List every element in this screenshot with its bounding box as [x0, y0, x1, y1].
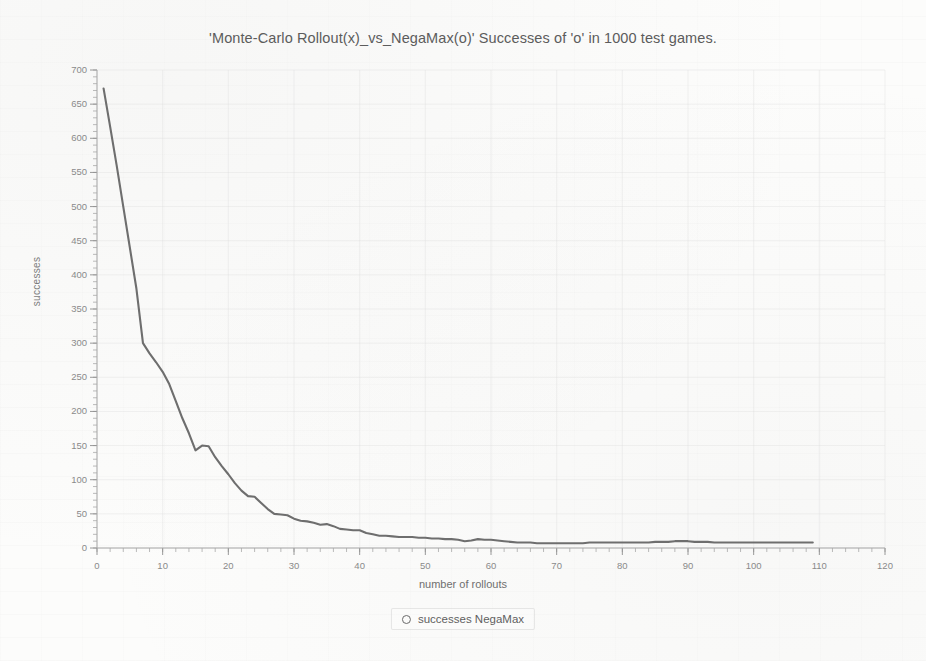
x-tick-label: 80 — [602, 560, 642, 571]
x-tick-label: 70 — [537, 560, 577, 571]
y-tick-label: 500 — [41, 201, 87, 212]
y-tick-label: 550 — [41, 166, 87, 177]
y-tick-label: 300 — [41, 337, 87, 348]
y-tick-label: 50 — [41, 508, 87, 519]
legend-item-label: successes NegaMax — [418, 613, 524, 625]
gridlines — [97, 70, 885, 548]
x-tick-label: 90 — [668, 560, 708, 571]
y-tick-label: 0 — [41, 542, 87, 553]
x-tick-label: 50 — [405, 560, 445, 571]
y-tick-label: 400 — [41, 269, 87, 280]
series-line-successes-negamax — [104, 88, 813, 543]
legend-marker-circle-icon — [402, 615, 411, 624]
x-tick-label: 40 — [340, 560, 380, 571]
y-tick-label: 450 — [41, 235, 87, 246]
x-tick-label: 100 — [734, 560, 774, 571]
x-axis-title: number of rollouts — [0, 578, 926, 590]
y-axis-title: successes — [31, 237, 42, 327]
x-tick-label: 30 — [274, 560, 314, 571]
axis-ticks — [90, 70, 885, 555]
plot-area: 0501001502002503003504004505005506006507… — [0, 0, 926, 661]
y-tick-label: 600 — [41, 132, 87, 143]
x-tick-label: 120 — [865, 560, 905, 571]
y-tick-label: 350 — [41, 303, 87, 314]
x-tick-label: 0 — [77, 560, 117, 571]
y-tick-label: 250 — [41, 371, 87, 382]
y-tick-label: 700 — [41, 64, 87, 75]
x-tick-label: 110 — [799, 560, 839, 571]
chart-legend: successes NegaMax — [391, 608, 535, 630]
y-tick-label: 150 — [41, 440, 87, 451]
chart-page: 'Monte-Carlo Rollout(x)_vs_NegaMax(o)' S… — [0, 0, 926, 661]
line-chart-svg — [0, 0, 926, 661]
y-tick-label: 100 — [41, 474, 87, 485]
y-tick-label: 650 — [41, 98, 87, 109]
x-tick-label: 10 — [143, 560, 183, 571]
x-tick-label: 60 — [471, 560, 511, 571]
y-tick-label: 200 — [41, 405, 87, 416]
x-tick-label: 20 — [208, 560, 248, 571]
